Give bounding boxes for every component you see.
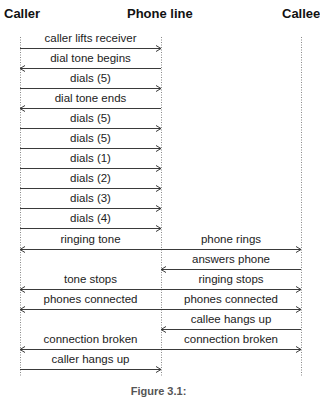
message-label: ringing stops bbox=[161, 273, 301, 286]
figure-caption: Figure 3.1: bbox=[0, 385, 317, 397]
message-label: connection broken bbox=[161, 333, 301, 346]
message-label: ringing tone bbox=[20, 233, 161, 246]
message-label: dials (3) bbox=[20, 192, 161, 205]
message-label: phone rings bbox=[161, 233, 301, 246]
message-label: phones connected bbox=[20, 293, 161, 306]
message-label: dials (2) bbox=[20, 172, 161, 185]
message-label: connection broken bbox=[20, 333, 161, 346]
message-label: callee hangs up bbox=[161, 313, 301, 326]
message-label: answers phone bbox=[161, 253, 301, 266]
message-label: dials (5) bbox=[20, 132, 161, 145]
message-label: dial tone begins bbox=[20, 52, 161, 65]
message-label: caller hangs up bbox=[20, 353, 161, 366]
message-label: dials (1) bbox=[20, 152, 161, 165]
message-label: dials (4) bbox=[20, 212, 161, 225]
message-label: dials (5) bbox=[20, 112, 161, 125]
message-label: tone stops bbox=[20, 273, 161, 286]
message-label: dials (5) bbox=[20, 72, 161, 85]
message-label: phones connected bbox=[161, 293, 301, 306]
message-label: caller lifts receiver bbox=[20, 32, 161, 45]
message-label: dial tone ends bbox=[20, 92, 161, 105]
